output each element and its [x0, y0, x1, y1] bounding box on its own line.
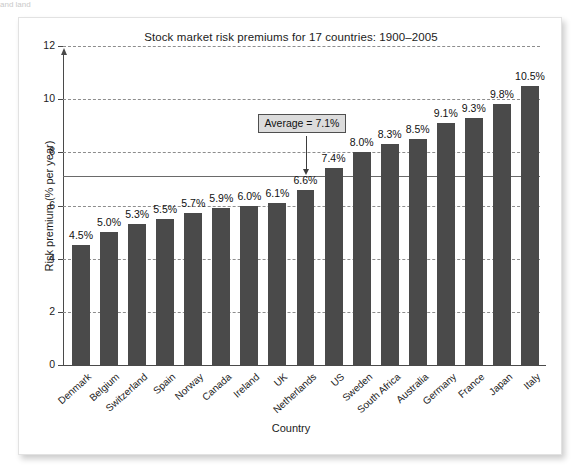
- bar-value-label: 7.4%: [309, 152, 359, 164]
- average-callout-label: Average = 7.1%: [258, 114, 347, 133]
- bar-value-label: 4.5%: [56, 229, 106, 241]
- y-axis-line: [63, 50, 64, 365]
- bar: [184, 213, 202, 365]
- plot-area: 024681012 Average = 7.1% 4.5%5.0%5.3%5.5…: [63, 46, 546, 365]
- y-axis-tick-label: 12: [35, 39, 55, 51]
- y-axis-tick-label: 2: [35, 305, 55, 317]
- figure-card: Stock market risk premiums for 17 countr…: [18, 17, 562, 455]
- bar: [72, 245, 90, 365]
- y-axis-tick-label: 10: [35, 92, 55, 104]
- x-axis-category-label: UK: [272, 371, 290, 388]
- y-axis-tick: [58, 312, 63, 313]
- y-axis-arrow-icon: [61, 48, 67, 55]
- y-axis-tick: [58, 206, 63, 207]
- scan-edge-artifact-text: and land: [0, 0, 60, 9]
- x-axis-category-label: Denmark: [56, 371, 94, 406]
- bar-value-label: 6.6%: [280, 174, 330, 186]
- gridline: [63, 99, 540, 100]
- bar: [297, 190, 315, 365]
- bar-value-label: 9.3%: [449, 102, 499, 114]
- bar: [268, 203, 286, 365]
- x-axis-title: Country: [19, 422, 563, 434]
- y-axis-tick: [58, 152, 63, 153]
- y-axis-tick: [58, 365, 63, 366]
- y-axis-tick: [58, 99, 63, 100]
- bar-value-label: 10.5%: [505, 70, 555, 82]
- bar: [128, 224, 146, 365]
- bar: [521, 86, 539, 365]
- bar: [353, 152, 371, 365]
- bar: [437, 123, 455, 365]
- bar-value-label: 9.8%: [477, 88, 527, 100]
- bar-value-label: 8.5%: [393, 123, 443, 135]
- average-callout-arrow-stem: [306, 136, 307, 170]
- y-axis-tick: [58, 259, 63, 260]
- gridline: [63, 46, 540, 47]
- y-axis-tick: [58, 46, 63, 47]
- y-axis-title: Risk premium (% per year): [43, 141, 55, 272]
- bar: [240, 206, 258, 366]
- bar-value-label: 6.1%: [252, 187, 302, 199]
- bar: [381, 144, 399, 365]
- bar: [493, 104, 511, 365]
- bar: [212, 208, 230, 365]
- y-axis-tick-label: 0: [35, 358, 55, 370]
- bar: [325, 168, 343, 365]
- x-axis-category-label: Italy: [521, 371, 542, 391]
- bar: [409, 139, 427, 365]
- x-axis-category-label: US: [328, 371, 346, 388]
- chart-title: Stock market risk premiums for 17 countr…: [19, 31, 563, 43]
- bar: [465, 118, 483, 365]
